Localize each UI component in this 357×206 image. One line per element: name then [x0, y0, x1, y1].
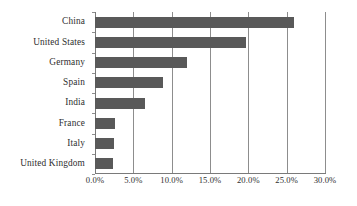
- bar-band: [95, 12, 325, 32]
- category-label-row: Spain: [0, 73, 90, 93]
- x-tick-label: 10.0%: [160, 176, 183, 185]
- category-label-india: India: [65, 98, 85, 107]
- x-tick-label: 5.0%: [124, 176, 142, 185]
- bar-band: [95, 154, 325, 174]
- bar-china: [95, 17, 294, 28]
- bar-band: [95, 113, 325, 133]
- category-label-spain: Spain: [63, 78, 85, 87]
- bar-india: [95, 98, 145, 109]
- category-label-united-states: United States: [33, 38, 85, 47]
- bar-united-states: [95, 37, 246, 48]
- category-label-row: United States: [0, 32, 90, 52]
- x-tick-label: 0.0%: [86, 176, 104, 185]
- category-label-row: Italy: [0, 134, 90, 154]
- x-axis-line: [95, 173, 326, 174]
- bar-spain: [95, 77, 163, 88]
- x-tick-label: 25.0%: [275, 176, 298, 185]
- bar-germany: [95, 57, 187, 68]
- category-label-italy: Italy: [67, 139, 85, 148]
- bar-band: [95, 134, 325, 154]
- bar-band: [95, 73, 325, 93]
- category-label-row: Germany: [0, 53, 90, 73]
- category-label-germany: Germany: [49, 58, 85, 67]
- category-label-row: France: [0, 113, 90, 133]
- bar-united-kingdom: [95, 158, 113, 169]
- bar-italy: [95, 138, 114, 149]
- x-tick-label: 30.0%: [314, 176, 337, 185]
- x-axis-tick-labels: 0.0%5.0%10.0%15.0%20.0%25.0%30.0%: [0, 176, 357, 196]
- bar-france: [95, 118, 115, 129]
- bar-chart: China United States Germany Spain India …: [0, 0, 357, 206]
- x-tick-label: 20.0%: [237, 176, 260, 185]
- category-label-united-kingdom: United Kingdom: [20, 159, 85, 168]
- category-label-row: India: [0, 93, 90, 113]
- bar-band: [95, 32, 325, 52]
- bar-band: [95, 93, 325, 113]
- bar-band: [95, 53, 325, 73]
- gridline-300: [325, 12, 326, 174]
- category-label-row: United Kingdom: [0, 154, 90, 174]
- category-label-china: China: [62, 17, 85, 26]
- bars-layer: [95, 12, 325, 174]
- x-tick-label: 15.0%: [199, 176, 222, 185]
- category-label-row: China: [0, 12, 90, 32]
- plot-area: [95, 12, 325, 174]
- category-axis: China United States Germany Spain India …: [0, 12, 90, 174]
- category-label-france: France: [59, 119, 85, 128]
